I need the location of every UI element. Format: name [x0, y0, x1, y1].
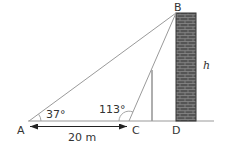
- angle-arc-A: [39, 114, 41, 121]
- point-label-a: A: [17, 125, 25, 136]
- brick-wall: [176, 13, 196, 121]
- distance-label: 20 m: [68, 132, 96, 143]
- height-label: h: [203, 60, 210, 71]
- point-label-b: B: [174, 2, 182, 13]
- angle-label-c: 113°: [99, 104, 126, 115]
- diagram-canvas: [0, 0, 226, 152]
- angle-label-a: 37°: [46, 109, 66, 120]
- point-label-c: C: [132, 125, 140, 136]
- point-label-d: D: [172, 125, 180, 136]
